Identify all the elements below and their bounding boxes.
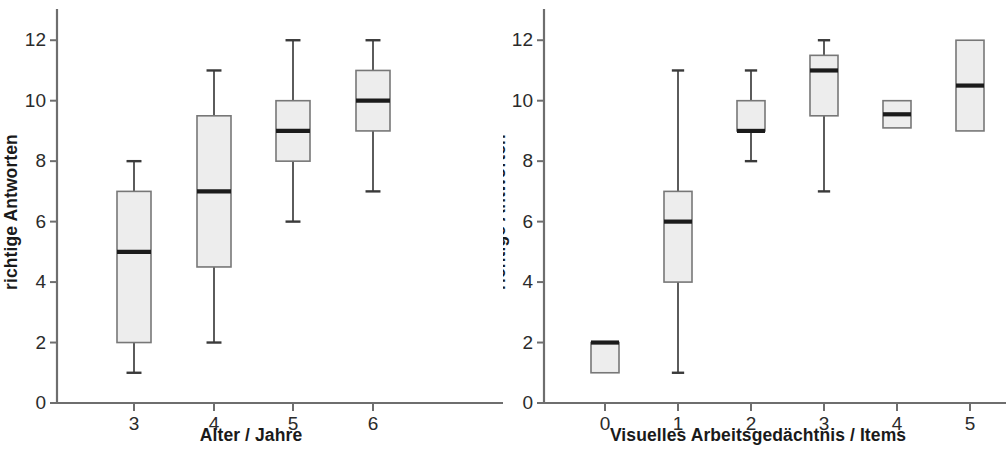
x-axis-title: Alter / Jahre xyxy=(200,425,303,445)
y-tick-label: 2 xyxy=(35,332,46,353)
chart-panel-left: 0246810123456Alter / Jahrerichtige Antwo… xyxy=(0,0,503,460)
y-tick-label: 2 xyxy=(522,332,533,353)
x-tick-label: 3 xyxy=(129,413,140,434)
x-tick-label: 6 xyxy=(368,413,379,434)
chart-panel-right: 024681012012345Visuelles Arbeitsgedächtn… xyxy=(503,0,1006,460)
boxplot-svg-left: 0246810123456Alter / Jahrerichtige Antwo… xyxy=(0,0,503,460)
boxplot-figure: 0246810123456Alter / Jahrerichtige Antwo… xyxy=(0,0,1006,460)
boxplot-box xyxy=(591,343,619,373)
y-tick-label: 10 xyxy=(512,90,533,111)
boxplot-svg-right: 024681012012345Visuelles Arbeitsgedächtn… xyxy=(503,0,1006,460)
x-tick-label: 5 xyxy=(965,413,976,434)
x-tick-label: 0 xyxy=(600,413,611,434)
x-axis-title: Visuelles Arbeitsgedächtnis / Items xyxy=(610,425,906,445)
boxplot-box xyxy=(197,70,231,342)
y-tick-label: 4 xyxy=(522,271,533,292)
box-iqr xyxy=(737,101,765,131)
plot-group-left: 0246810123456Alter / Jahrerichtige Antwo… xyxy=(1,10,503,445)
boxplot-box xyxy=(737,70,765,161)
boxplot-box xyxy=(664,70,692,372)
box-iqr xyxy=(810,55,838,115)
y-axis-title: richtige Antworten xyxy=(503,134,509,290)
y-tick-label: 8 xyxy=(35,150,46,171)
boxplot-box xyxy=(883,101,911,128)
y-tick-label: 0 xyxy=(35,392,46,413)
boxplot-box xyxy=(956,40,984,131)
boxplot-box xyxy=(356,40,390,191)
box-iqr xyxy=(591,343,619,373)
y-tick-label: 6 xyxy=(35,211,46,232)
plot-group-right: 024681012012345Visuelles Arbeitsgedächtn… xyxy=(503,10,1006,445)
y-tick-label: 12 xyxy=(512,29,533,50)
y-tick-label: 0 xyxy=(522,392,533,413)
box-iqr xyxy=(117,191,151,342)
box-iqr xyxy=(664,191,692,282)
y-tick-label: 4 xyxy=(35,271,46,292)
y-tick-label: 10 xyxy=(25,90,46,111)
boxplot-box xyxy=(117,161,151,373)
y-tick-label: 8 xyxy=(522,150,533,171)
y-axis-title: richtige Antworten xyxy=(1,134,21,290)
y-tick-label: 6 xyxy=(522,211,533,232)
y-tick-label: 12 xyxy=(25,29,46,50)
boxplot-box xyxy=(810,40,838,191)
boxplot-box xyxy=(276,40,310,221)
